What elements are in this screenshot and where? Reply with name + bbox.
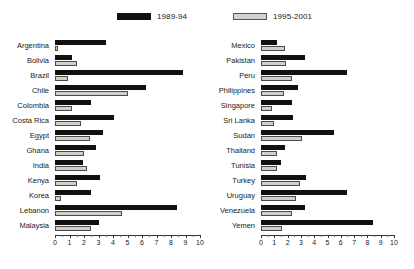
bar-uruguay-1995-2001 <box>261 196 296 201</box>
bar-turkey-1995-2001 <box>261 181 300 186</box>
bar-india-1989-94 <box>55 160 83 165</box>
x-tick-label: 2 <box>82 239 86 247</box>
bar-group <box>55 69 200 82</box>
x-tick-label: 0 <box>259 239 263 247</box>
chart-legend: 1989-94 1995-2001 <box>0 10 414 30</box>
bar-korea-1989-94 <box>55 190 91 195</box>
bar-group <box>55 219 200 232</box>
chart-row: Ghana <box>0 143 206 158</box>
x-tick-label: 10 <box>390 239 398 247</box>
chart-row: Sudan <box>206 128 414 143</box>
legend-item-series-1: 1989-94 <box>117 12 187 21</box>
category-label-thailand: Thailand <box>206 143 258 158</box>
category-label-brazil: Brazil <box>0 68 52 83</box>
bar-india-1995-2001 <box>55 166 87 171</box>
bar-philippines-1995-2001 <box>261 91 284 96</box>
bar-yemen-1995-2001 <box>261 226 282 231</box>
x-tick <box>55 235 56 238</box>
x-tick <box>128 235 129 238</box>
x-tick <box>70 235 71 238</box>
bar-kenya-1995-2001 <box>55 181 77 186</box>
x-tick-label: 1 <box>68 239 72 247</box>
x-axis-right: 012345678910 <box>261 235 394 253</box>
bar-singapore-1995-2001 <box>261 106 272 111</box>
x-tick-minor <box>361 235 362 237</box>
x-tick-label: 5 <box>126 239 130 247</box>
category-label-pakistan: Pakistan <box>206 53 258 68</box>
chart-figure: 1989-94 1995-2001 ArgentinaBoliviaBrazil… <box>0 0 414 269</box>
bar-group <box>261 84 394 97</box>
category-label-philippines: Philippines <box>206 83 258 98</box>
legend-swatch-1995-2001 <box>233 13 267 20</box>
plot-rows-left: ArgentinaBoliviaBrazilChileColombiaCosta… <box>0 38 206 233</box>
x-tick-label: 1 <box>272 239 276 247</box>
bar-chile-1989-94 <box>55 85 146 90</box>
x-tick-minor <box>347 235 348 237</box>
bar-philippines-1989-94 <box>261 85 298 90</box>
category-label-mexico: Mexico <box>206 38 258 53</box>
legend-swatch-1989-94 <box>117 13 151 20</box>
bar-group <box>55 174 200 187</box>
bar-egypt-1995-2001 <box>55 136 90 141</box>
category-label-sri-lanka: Sri Lanka <box>206 113 258 128</box>
x-tick <box>328 235 329 238</box>
x-tick-minor <box>62 235 63 237</box>
chart-row: Mexico <box>206 38 414 53</box>
x-tick <box>171 235 172 238</box>
bar-group <box>261 219 394 232</box>
chart-row: Kenya <box>0 173 206 188</box>
x-tick <box>157 235 158 238</box>
category-label-india: India <box>0 158 52 173</box>
category-label-chile: Chile <box>0 83 52 98</box>
bar-group <box>55 144 200 157</box>
category-label-bolivia: Bolivia <box>0 53 52 68</box>
chart-row: Argentina <box>0 38 206 53</box>
x-tick-label: 7 <box>352 239 356 247</box>
chart-row: Pakistan <box>206 53 414 68</box>
bar-bolivia-1995-2001 <box>55 61 77 66</box>
legend-label-1995-2001: 1995-2001 <box>273 12 312 21</box>
x-tick-label: 0 <box>53 239 57 247</box>
chart-row: India <box>0 158 206 173</box>
chart-row: Egypt <box>0 128 206 143</box>
bar-sudan-1989-94 <box>261 130 334 135</box>
chart-row: Thailand <box>206 143 414 158</box>
bar-group <box>261 174 394 187</box>
bar-group <box>261 69 394 82</box>
bar-group <box>261 189 394 202</box>
x-tick <box>288 235 289 238</box>
bar-thailand-1995-2001 <box>261 151 277 156</box>
bar-kenya-1989-94 <box>55 175 100 180</box>
x-tick <box>314 235 315 238</box>
bar-group <box>261 54 394 67</box>
bar-lebanon-1995-2001 <box>55 211 122 216</box>
category-label-costa-rica: Costa Rica <box>0 113 52 128</box>
x-tick <box>99 235 100 238</box>
x-tick-minor <box>281 235 282 237</box>
x-tick <box>301 235 302 238</box>
chart-row: Chile <box>0 83 206 98</box>
bar-costa-rica-1995-2001 <box>55 121 81 126</box>
category-label-uruguay: Uruguay <box>206 188 258 203</box>
bar-korea-1995-2001 <box>55 196 61 201</box>
legend-item-series-2: 1995-2001 <box>233 12 312 21</box>
bar-malaysia-1995-2001 <box>55 226 91 231</box>
x-tick-minor <box>164 235 165 237</box>
category-label-sudan: Sudan <box>206 128 258 143</box>
bar-peru-1995-2001 <box>261 76 292 81</box>
bar-group <box>55 84 200 97</box>
chart-row: Sri Lanka <box>206 113 414 128</box>
bar-group <box>261 39 394 52</box>
x-tick-label: 3 <box>97 239 101 247</box>
bar-argentina-1995-2001 <box>55 46 58 51</box>
chart-row: Costa Rica <box>0 113 206 128</box>
bar-costa-rica-1989-94 <box>55 115 114 120</box>
category-label-malaysia: Malaysia <box>0 218 52 233</box>
bar-sri-lanka-1995-2001 <box>261 121 274 126</box>
bar-tunisia-1989-94 <box>261 160 281 165</box>
bar-group <box>261 114 394 127</box>
bar-group <box>55 129 200 142</box>
x-tick-label: 6 <box>339 239 343 247</box>
x-tick <box>200 235 201 238</box>
bar-group <box>55 189 200 202</box>
